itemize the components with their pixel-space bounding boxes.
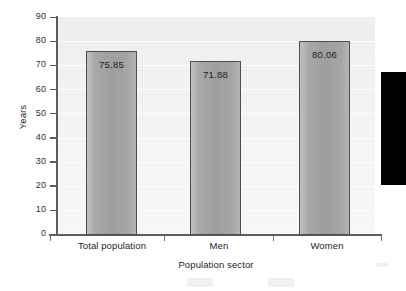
bar-value-label: 80.06 bbox=[300, 50, 349, 60]
y-axis-tick bbox=[50, 65, 56, 66]
y-axis-line bbox=[56, 16, 58, 235]
bar-women[interactable]: 80.06 bbox=[299, 41, 350, 235]
y-axis-tick bbox=[50, 210, 56, 211]
faint-scan-smudge-artifact bbox=[376, 263, 388, 267]
y-axis-tick bbox=[50, 185, 56, 186]
bar-total-population[interactable]: 75.85 bbox=[86, 51, 137, 235]
y-axis-tick-label: 90 bbox=[6, 12, 46, 21]
y-axis-tick bbox=[50, 17, 56, 18]
x-axis-category-label-women: Women bbox=[272, 240, 382, 251]
bar-men[interactable]: 71.88 bbox=[190, 61, 241, 235]
y-axis-tick bbox=[50, 161, 56, 162]
faint-scan-smudge-artifact bbox=[268, 278, 294, 287]
y-axis-tick-label: 0 bbox=[6, 229, 46, 238]
y-axis-title: Years bbox=[18, 87, 28, 147]
bar-value-label: 71.88 bbox=[191, 70, 240, 80]
black-scan-block-artifact bbox=[381, 72, 406, 185]
y-axis-tick-label: 20 bbox=[6, 181, 46, 190]
y-axis-tick-label: 10 bbox=[6, 205, 46, 214]
x-axis-end-tick bbox=[50, 235, 51, 241]
bar-chart-figure: 90 80 70 60 50 40 30 20 10 0 75.85 71.88… bbox=[0, 0, 406, 291]
y-axis-tick-label: 70 bbox=[6, 60, 46, 69]
x-axis-category-label-total-population: Total population bbox=[52, 240, 172, 251]
y-axis-tick-label: 80 bbox=[6, 36, 46, 45]
y-axis-tick bbox=[50, 41, 56, 42]
faint-scan-smudge-artifact bbox=[187, 278, 213, 287]
x-axis-category-label-men: Men bbox=[165, 240, 273, 251]
y-axis-tick bbox=[50, 89, 56, 90]
y-axis-tick bbox=[50, 113, 56, 114]
y-axis-tick bbox=[50, 137, 56, 138]
x-axis-title: Population sector bbox=[57, 259, 375, 270]
bar-value-label: 75.85 bbox=[87, 60, 136, 70]
y-axis-tick-label: 30 bbox=[6, 157, 46, 166]
